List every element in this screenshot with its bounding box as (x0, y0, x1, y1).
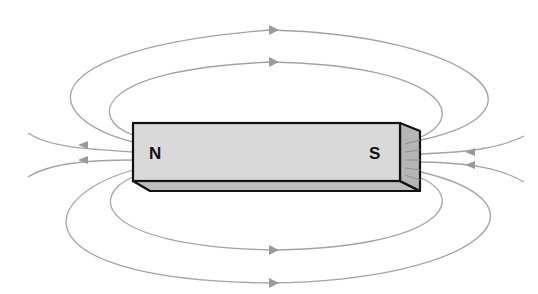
field-line-left-lower (28, 160, 133, 177)
field-line-left-upper (28, 133, 133, 152)
arrow-left-icon (465, 161, 475, 169)
bar-magnet: N S (133, 123, 420, 191)
magnet-front-face (133, 123, 400, 181)
arrow-right-icon (269, 278, 279, 288)
south-pole-label: S (369, 144, 380, 163)
magnet-bottom-face (133, 181, 420, 191)
arrow-right-icon (269, 245, 279, 255)
arrow-left-icon (465, 148, 475, 156)
north-pole-label: N (149, 144, 161, 163)
magnet-field-diagram: N S (0, 0, 538, 294)
magnet-side-face (400, 123, 420, 191)
arrow-right-icon (269, 57, 279, 67)
arrow-right-icon (269, 25, 279, 35)
